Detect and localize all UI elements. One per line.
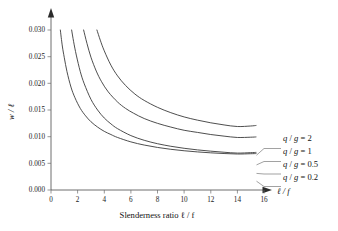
curve-series-2 — [84, 30, 256, 138]
curve-series-3 — [97, 30, 256, 127]
legend-eq-2: = 0.5 — [298, 159, 318, 169]
legend-sep-1: / — [287, 146, 294, 156]
x-tick-label: 2 — [76, 196, 80, 204]
legend-leader-line-1 — [257, 162, 282, 165]
legend-sep-0: / — [287, 133, 294, 143]
y-tick-label: 0.010 — [29, 133, 46, 141]
legend-sep-2: / — [287, 159, 294, 169]
legend-label-0: q / g = 2 — [283, 133, 312, 143]
x-axis-title: Slenderness ratio ℓ / f — [120, 210, 195, 220]
legend-label-1: q / g = 1 — [283, 146, 312, 156]
y-tick-label: 0.015 — [29, 106, 46, 114]
y-tick-label: 0.005 — [29, 160, 46, 168]
y-tick-label: 0.030 — [29, 26, 46, 34]
legend-eq-3: = 0.2 — [298, 172, 318, 182]
x-ticks-group: 0 2 4 6 8 10 12 14 16 — [49, 190, 268, 204]
y-ticks-group: 0.000 0.005 0.010 0.015 0.020 0.025 0.03… — [29, 26, 51, 194]
legend-eq-0: = 2 — [298, 133, 311, 143]
x-tick-label: 4 — [103, 196, 107, 204]
x-axis-short-title: ℓ / f — [277, 186, 291, 196]
y-axis-arrow-icon — [48, 8, 54, 18]
x-tick-label: 0 — [49, 196, 53, 204]
curves-group — [60, 30, 256, 154]
x-tick-label: 10 — [181, 196, 189, 204]
legend-sep-3: / — [287, 172, 294, 182]
y-tick-label: 0.000 — [29, 186, 46, 194]
x-tick-label: 6 — [129, 196, 133, 204]
y-tick-label: 0.020 — [29, 80, 46, 88]
curve-series-0 — [60, 30, 256, 154]
legend-group: q / g = 2 q / g = 1 q / g = 0.5 q / g = … — [257, 133, 319, 187]
curve-series-1 — [72, 30, 256, 153]
x-tick-label: 14 — [234, 196, 242, 204]
legend-eq-1: = 1 — [298, 146, 311, 156]
axes-group — [48, 8, 272, 193]
legend-label-2: q / g = 0.5 — [283, 159, 318, 169]
x-tick-label: 16 — [260, 196, 268, 204]
legend-label-3: q / g = 0.2 — [283, 172, 318, 182]
legend-leader-line-0 — [257, 149, 282, 156]
x-tick-label: 8 — [156, 196, 160, 204]
chart-canvas: 0.000 0.005 0.010 0.015 0.020 0.025 0.03… — [0, 0, 338, 231]
legend-leader-line-2 — [257, 173, 282, 174]
chart-figure: 0.000 0.005 0.010 0.015 0.020 0.025 0.03… — [0, 0, 338, 231]
x-tick-label: 12 — [207, 196, 215, 204]
y-axis-title: w / ℓ — [6, 104, 16, 120]
y-tick-label: 0.025 — [29, 53, 46, 61]
